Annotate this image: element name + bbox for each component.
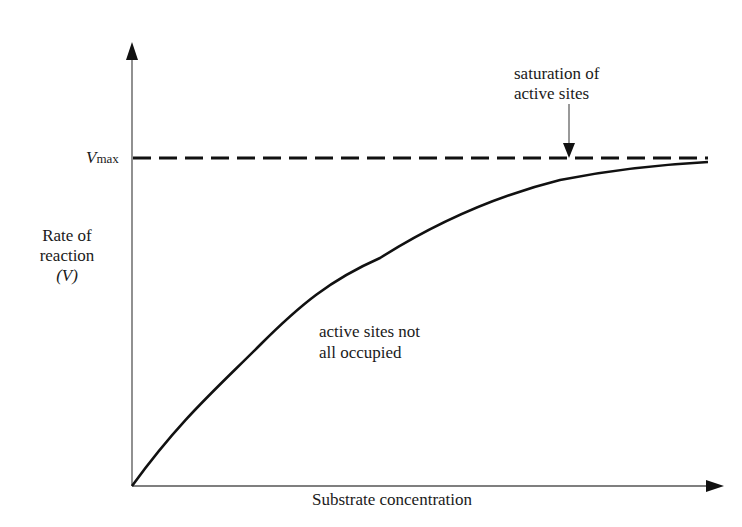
unsaturated-line-2: all occupied: [319, 342, 420, 363]
y-axis-label: Rate of reaction (V): [22, 226, 112, 286]
x-axis-arrow-icon: [706, 480, 724, 492]
vmax-symbol: V: [86, 148, 96, 167]
saturation-line-2: active sites: [514, 84, 599, 104]
vmax-label: Vmax: [86, 148, 119, 169]
vmax-subscript: max: [96, 151, 118, 166]
saturation-annotation: saturation of active sites: [514, 64, 599, 104]
y-label-line-1: Rate of: [22, 226, 112, 246]
y-label-line-3: (V): [22, 266, 112, 286]
saturation-line-1: saturation of: [514, 64, 599, 84]
saturation-arrow-icon: [563, 143, 575, 158]
y-axis-arrow-icon: [126, 42, 138, 60]
x-axis-label: Substrate concentration: [312, 490, 472, 510]
unsaturated-line-1: active sites not: [319, 321, 420, 342]
y-label-line-2: reaction: [22, 246, 112, 266]
unsaturated-annotation: active sites not all occupied: [319, 321, 420, 363]
